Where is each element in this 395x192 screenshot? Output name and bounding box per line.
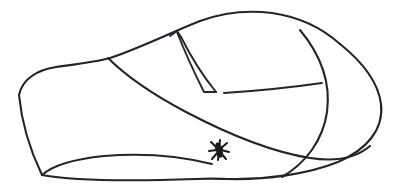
- mobius-strip-figure: Mobius strip with ant mobius-strip hand-…: [0, 0, 395, 192]
- ant-head: [215, 143, 220, 148]
- mobius-strip-illustration: [0, 0, 395, 192]
- ant-abdomen: [217, 150, 223, 158]
